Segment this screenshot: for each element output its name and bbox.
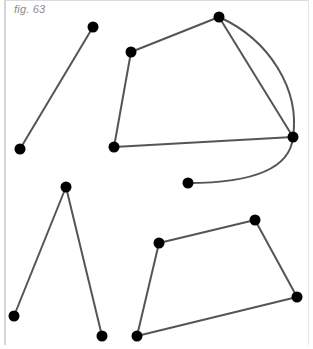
edge-M-N xyxy=(137,297,297,336)
graph-diagram xyxy=(0,0,313,349)
node-N xyxy=(132,331,143,342)
node-H xyxy=(61,182,72,193)
node-I xyxy=(9,311,20,322)
edge-K-L xyxy=(159,220,255,243)
edge-N-K xyxy=(137,243,159,336)
edge-L-M xyxy=(255,220,297,297)
node-A xyxy=(88,22,99,33)
node-J xyxy=(97,331,108,342)
node-B xyxy=(15,144,26,155)
node-G xyxy=(183,178,194,189)
node-L xyxy=(250,215,261,226)
node-C xyxy=(126,47,137,58)
edge-F-C xyxy=(114,52,131,147)
edge-A-B xyxy=(20,27,93,149)
node-F xyxy=(109,142,120,153)
graph-edges xyxy=(14,17,297,336)
edge-H-J xyxy=(66,187,102,336)
node-E xyxy=(288,132,299,143)
graph-nodes xyxy=(9,12,303,342)
edge-H-I xyxy=(14,187,66,316)
edge-E-F xyxy=(114,137,293,147)
node-D xyxy=(214,12,225,23)
edge-E-G-curve xyxy=(188,137,293,183)
node-K xyxy=(154,238,165,249)
edge-C-D xyxy=(131,17,219,52)
node-M xyxy=(292,292,303,303)
